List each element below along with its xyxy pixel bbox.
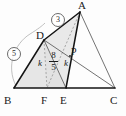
length-label-k-left: k xyxy=(38,59,42,68)
length-label-k-right: k xyxy=(64,59,68,68)
vertex-label-E: E xyxy=(60,95,67,106)
vertex-label-C: C xyxy=(110,95,117,106)
vertex-label-A: A xyxy=(78,0,86,11)
vertex-label-D: D xyxy=(36,30,44,41)
geometry-figure: A B C D P F E 3 5 k k 8 5 xyxy=(0,0,126,116)
vertex-label-P: P xyxy=(71,47,77,57)
vertex-label-F: F xyxy=(41,95,47,106)
ratio-label-5: 5 xyxy=(7,47,21,61)
fraction-denominator: 5 xyxy=(51,63,56,72)
ratio-label-3: 3 xyxy=(51,13,65,27)
length-label-eight-fifths: 8 5 xyxy=(49,51,58,72)
vertex-label-B: B xyxy=(4,95,11,106)
fraction-numerator: 8 xyxy=(51,51,56,60)
